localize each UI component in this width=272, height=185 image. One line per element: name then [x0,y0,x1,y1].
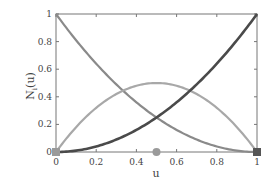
control-point-circle [153,148,161,156]
y-tick-label: 0 [46,147,52,157]
y-label-arg: (u) [24,72,37,88]
y-axis-label: Ni(u) [24,72,39,100]
x-tick-label: 0.6 [169,157,184,167]
x-tick-label: 0.2 [89,157,103,167]
y-tick-label: 0.6 [38,64,53,74]
y-tick-label: 0.2 [38,119,52,129]
basis-function-chart: 00.20.40.60.8100.20.40.60.81 u Ni(u) [0,0,272,185]
x-tick-label: 0.8 [210,157,225,167]
svg-text:Ni(u): Ni(u) [24,72,39,100]
y-tick-label: 0.8 [38,37,53,47]
control-point-square [253,148,261,156]
control-point-square [52,148,60,156]
x-axis-label: u [152,167,159,180]
plot-curves [56,14,257,152]
x-tick-label: 1 [254,157,260,167]
x-tick-label: 0.4 [129,157,144,167]
y-tick-label: 0.4 [38,92,53,102]
y-tick-label: 1 [46,9,52,19]
x-tick-label: 0 [53,157,59,167]
y-label-main: N [24,90,37,100]
